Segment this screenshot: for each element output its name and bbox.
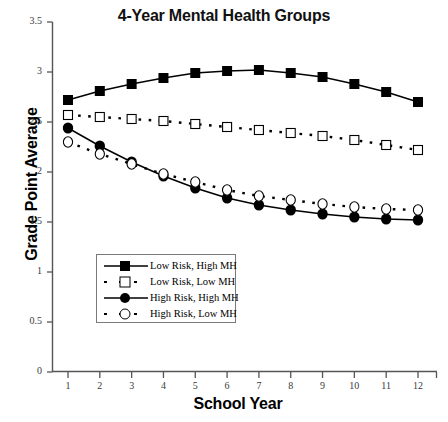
data-point-marker (95, 149, 104, 159)
series-line (68, 128, 418, 220)
series-line (68, 115, 418, 150)
legend-label: High Risk, Low MH (150, 308, 237, 320)
legend-label: Low Risk, Low MH (150, 276, 235, 288)
data-point-marker (350, 136, 359, 145)
data-point-marker (413, 205, 422, 215)
data-point-marker (63, 122, 73, 133)
data-point-marker (64, 111, 73, 120)
data-point-marker (63, 137, 72, 147)
data-point-marker (254, 126, 263, 135)
data-point-marker (95, 113, 104, 122)
data-point-marker (286, 195, 295, 205)
data-point-marker (159, 169, 168, 179)
data-point-marker (350, 202, 359, 212)
data-point-marker (254, 191, 263, 201)
data-point-marker (382, 204, 391, 214)
chart-figure: 4-Year Mental Health Groups Grade Point … (0, 0, 448, 422)
legend-key-open-square-icon (102, 275, 150, 289)
data-series (63, 65, 423, 107)
data-point-marker (191, 177, 200, 187)
legend-item-high-risk-low-mh: High Risk, Low MH (97, 306, 235, 322)
legend-key-filled-square-icon (102, 259, 150, 273)
data-series-group (63, 65, 423, 226)
data-point-marker (286, 129, 295, 138)
data-point-marker (413, 214, 423, 225)
data-point-marker (318, 72, 328, 82)
legend-label: Low Risk, High MH (150, 260, 237, 272)
data-point-marker (413, 97, 423, 107)
data-point-marker (318, 199, 327, 209)
data-point-marker (127, 159, 136, 169)
axes (47, 22, 437, 378)
chart-legend: Low Risk, High MH Low Risk, Low MH High … (96, 254, 236, 323)
data-series (63, 137, 422, 215)
data-point-marker (127, 79, 137, 89)
data-point-marker (95, 86, 105, 96)
data-point-marker (286, 68, 296, 78)
data-point-marker (381, 213, 391, 224)
data-point-marker (223, 123, 232, 132)
legend-key-open-circle-icon (102, 307, 150, 321)
legend-item-high-risk-high-mh: High Risk, High MH (97, 290, 235, 306)
data-point-marker (414, 146, 423, 155)
legend-label: High Risk, High MH (150, 292, 239, 304)
data-point-marker (317, 208, 327, 219)
data-point-marker (382, 141, 391, 150)
series-line (68, 70, 418, 102)
data-point-marker (254, 65, 264, 75)
series-line (68, 142, 418, 210)
legend-item-low-risk-low-mh: Low Risk, Low MH (97, 274, 235, 290)
data-point-marker (222, 185, 231, 195)
data-point-marker (159, 117, 168, 126)
data-point-marker (286, 204, 296, 215)
legend-key-filled-circle-icon (102, 291, 150, 305)
data-point-marker (190, 68, 200, 78)
data-point-marker (127, 115, 136, 124)
data-point-marker (222, 66, 232, 76)
data-point-marker (63, 95, 73, 105)
data-point-marker (158, 73, 168, 83)
data-point-marker (381, 87, 391, 97)
data-point-marker (349, 211, 359, 222)
plot-area (0, 0, 448, 422)
legend-item-low-risk-high-mh: Low Risk, High MH (97, 258, 235, 274)
data-point-marker (191, 120, 200, 129)
data-point-marker (318, 132, 327, 141)
data-series (64, 111, 423, 155)
data-series (63, 122, 423, 225)
data-point-marker (349, 79, 359, 89)
